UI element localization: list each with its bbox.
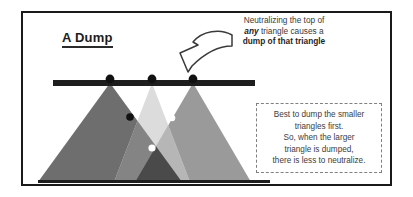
callout-line-2-rest: triangle causes a (259, 26, 324, 36)
note-line-2: triangles first. (295, 121, 344, 133)
triangles-diagram (38, 70, 270, 186)
page-title: A Dump (62, 30, 113, 48)
callout-line-3: dump of that triangle (224, 36, 344, 47)
white-child-dot-right (169, 115, 176, 122)
callout-text: Neutralizing the top of any triangle cau… (224, 15, 344, 47)
note-line-3: So, when the larger (283, 132, 354, 144)
apex-dot-2 (148, 75, 157, 84)
callout-emphasis-any: any (244, 26, 258, 36)
apex-dot-1 (106, 75, 115, 84)
white-child-dot-lower (148, 144, 155, 151)
note-line-4: triangle is dumped, (284, 144, 353, 156)
apex-dot-3 (189, 75, 198, 84)
callout-line-2: any triangle causes a (224, 26, 344, 37)
black-child-dot (126, 113, 134, 121)
callout-line-1: Neutralizing the top of (224, 15, 344, 26)
note-line-1: Best to dump the smaller (274, 109, 365, 121)
note-box: Best to dump the smaller triangles first… (256, 103, 382, 173)
baseline-bar (38, 180, 270, 183)
figure-canvas: A Dump Neutralizing the top of any trian… (0, 0, 413, 197)
note-line-5: there is less to neutralize. (273, 155, 366, 167)
